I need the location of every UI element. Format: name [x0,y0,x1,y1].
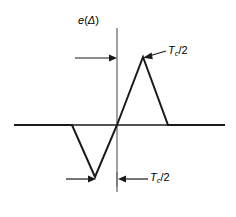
dimension-label-bottom-subscript: c [157,176,161,185]
scurve-waveform [14,57,225,177]
dimension-label-top-subscript: c [175,49,179,58]
dimension-label-bottom: Tc/2 [150,172,170,183]
dimension-label-bottom-suffix: /2 [160,171,169,183]
y-axis-label-close-paren: ) [95,14,99,26]
y-axis-label: e(Δ) [78,15,99,26]
dimension-label-top-symbol: T [168,44,175,56]
dimension-label-top-suffix: /2 [178,44,187,56]
top-label-leader [143,51,166,59]
dimension-label-bottom-symbol: T [150,171,157,183]
discriminator-scurve-figure: e(Δ) Tc/2 Tc/2 [0,0,236,217]
bottom-right-dimension-arrow-head [118,176,126,183]
bottom-right-dimension-arrow [118,176,148,183]
dimension-label-top: Tc/2 [168,45,188,56]
top-dimension-arrow-head [109,55,117,62]
bottom-left-dimension-arrow [66,176,96,183]
plot-canvas [0,0,236,217]
top-dimension-arrow [75,55,117,62]
